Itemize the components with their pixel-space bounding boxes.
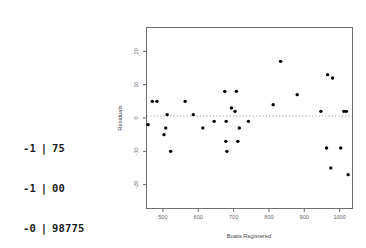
x-tick-label: 600 xyxy=(194,214,203,220)
y-tick-label: 0 xyxy=(133,116,139,119)
data-point xyxy=(346,173,349,176)
data-point xyxy=(165,113,168,116)
data-point xyxy=(201,126,204,129)
x-axis-label: Boats Registered xyxy=(227,233,271,239)
data-point xyxy=(192,113,195,116)
plot-frame xyxy=(147,28,353,209)
data-point xyxy=(183,100,186,103)
x-tick-label: 900 xyxy=(300,214,309,220)
y-tick-label: 20 xyxy=(133,48,139,54)
data-point xyxy=(331,76,334,79)
data-point xyxy=(329,166,332,169)
x-axis-ticks: 5006007008009001000 xyxy=(158,208,346,220)
x-tick-label: 500 xyxy=(158,214,167,220)
data-point xyxy=(224,120,227,123)
data-point xyxy=(151,100,154,103)
figure-root: -1|75 -1|00 -0|98775 -0|3332110 0|111223… xyxy=(0,0,366,248)
x-tick-label: 800 xyxy=(264,214,273,220)
data-point xyxy=(235,90,238,93)
x-tick-label: 1000 xyxy=(333,214,345,220)
data-point xyxy=(169,150,172,153)
residual-scatter-plot: 5006007008009001000 -20-1001020 Boats Re… xyxy=(0,0,366,248)
data-point xyxy=(326,73,329,76)
x-tick-label: 700 xyxy=(229,214,238,220)
data-point xyxy=(146,123,149,126)
data-point xyxy=(296,93,299,96)
data-points xyxy=(146,60,349,177)
data-point xyxy=(164,126,167,129)
data-point xyxy=(271,103,274,106)
data-point xyxy=(162,133,165,136)
y-axis-label: Residuals xyxy=(117,105,123,131)
y-tick-label: 10 xyxy=(133,82,139,88)
data-point xyxy=(155,100,158,103)
data-point xyxy=(345,110,348,113)
y-tick-label: -20 xyxy=(133,181,139,189)
data-point xyxy=(230,106,233,109)
data-point xyxy=(225,150,228,153)
data-point xyxy=(233,110,236,113)
data-point xyxy=(238,126,241,129)
data-point xyxy=(223,90,226,93)
data-point xyxy=(339,146,342,149)
y-tick-label: -10 xyxy=(133,147,139,155)
data-point xyxy=(325,146,328,149)
y-axis-ticks: -20-1001020 xyxy=(133,48,147,188)
data-point xyxy=(224,140,227,143)
data-point xyxy=(236,140,239,143)
data-point xyxy=(247,120,250,123)
data-point xyxy=(279,60,282,63)
data-point xyxy=(212,120,215,123)
data-point xyxy=(319,110,322,113)
